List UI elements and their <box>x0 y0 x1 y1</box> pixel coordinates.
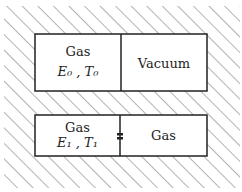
top-right-vacuum-label: Vacuum <box>121 56 207 71</box>
top-left-gas-label: Gas E₀ , T₀ <box>35 44 121 79</box>
diagram-canvas <box>0 0 242 192</box>
bottom-left-gas-label: Gas E₁ , T₁ <box>35 120 120 150</box>
top-left-state-vars: E₀ , T₀ <box>35 64 121 79</box>
bottom-left-state-vars: E₁ , T₁ <box>35 135 120 150</box>
bottom-right-gas-label: Gas <box>120 128 207 143</box>
